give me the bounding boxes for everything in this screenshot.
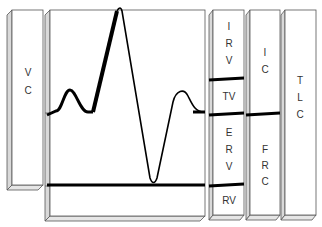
spirogram-panel <box>45 8 205 221</box>
volumes-column: I R V TV E R V RV <box>209 10 244 220</box>
tlc-label-2: L <box>297 92 303 103</box>
tlc-column: T L C <box>281 10 316 220</box>
erv-label-2: R <box>225 144 232 155</box>
erv-label-3: V <box>226 161 233 172</box>
tlc-label-3: C <box>296 109 303 120</box>
rv-label: RV <box>222 195 236 206</box>
ic-label-1: I <box>264 47 267 58</box>
vc-column: V C <box>7 10 43 190</box>
irv-label-3: V <box>226 55 233 66</box>
vc-label-2: C <box>24 85 31 96</box>
ic-label-2: C <box>261 64 268 75</box>
tv-label: TV <box>223 91 236 102</box>
capacities-column: I C F R C <box>246 10 280 220</box>
lung-volumes-diagram: V C I R V TV E R V RV <box>0 0 322 227</box>
vc-label-1: V <box>25 67 32 78</box>
tlc-label-1: T <box>297 75 303 86</box>
frc-label-1: F <box>262 144 268 155</box>
erv-label-1: E <box>226 127 233 138</box>
frc-label-2: R <box>261 160 268 171</box>
irv-label-1: I <box>228 21 231 32</box>
frc-label-3: C <box>261 176 268 187</box>
irv-label-2: R <box>225 38 232 49</box>
